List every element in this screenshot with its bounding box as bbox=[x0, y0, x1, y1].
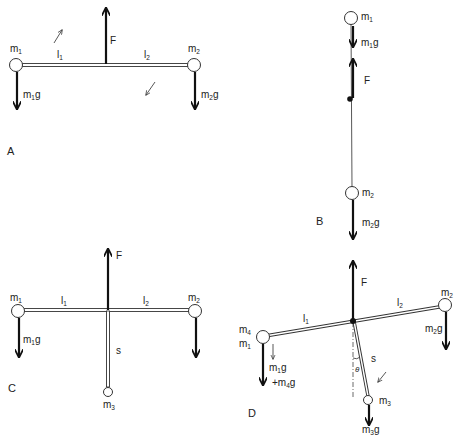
panel-label-b: B bbox=[316, 215, 323, 227]
label-m4: m4 bbox=[239, 324, 251, 336]
label-m2: m2 bbox=[362, 187, 374, 199]
mass-m1-m4 bbox=[257, 331, 270, 344]
panel-label-d: D bbox=[248, 407, 256, 419]
label-l2: l2 bbox=[144, 49, 150, 61]
theta-arc bbox=[353, 357, 360, 359]
label-l1: l1 bbox=[61, 295, 67, 307]
label-m1: m1 bbox=[361, 11, 373, 23]
label-m2g: m2g bbox=[362, 217, 380, 229]
label-f: F bbox=[116, 250, 122, 261]
mass-m2 bbox=[439, 299, 452, 312]
label-m4g: +m4g bbox=[272, 377, 295, 389]
label-f: F bbox=[364, 75, 370, 86]
label-l2: l2 bbox=[143, 295, 149, 307]
mass-m1 bbox=[10, 59, 23, 72]
label-l1: l1 bbox=[303, 313, 309, 325]
pendulum-rod-s bbox=[107, 311, 110, 387]
label-m1: m1 bbox=[10, 43, 22, 55]
mass-m3 bbox=[364, 396, 373, 405]
panel-a: m1 l1 F l2 m2 m1g m2g A bbox=[7, 9, 219, 157]
lever-rod bbox=[22, 64, 194, 67]
label-m2g: m2g bbox=[425, 323, 443, 335]
label-f: F bbox=[110, 35, 116, 46]
label-m3: m3 bbox=[379, 395, 391, 407]
panel-label-c: C bbox=[8, 382, 16, 394]
label-s: s bbox=[116, 345, 121, 356]
label-m2: m2 bbox=[188, 43, 200, 55]
mass-m1 bbox=[345, 12, 358, 25]
mass-m2 bbox=[188, 59, 201, 72]
panel-label-a: A bbox=[7, 145, 15, 157]
physics-diagram: m1 l1 F l2 m2 m1g m2g A m1 m1g F m2 m2g … bbox=[0, 0, 458, 435]
label-m2g: m2g bbox=[201, 89, 219, 101]
label-m1g: m1g bbox=[269, 362, 287, 374]
label-m1: m1 bbox=[239, 338, 251, 350]
arrow-down-left-icon bbox=[378, 372, 386, 382]
mass-m1 bbox=[12, 305, 25, 318]
label-s: s bbox=[371, 353, 376, 364]
label-m3: m3 bbox=[103, 399, 115, 411]
panel-d: F l1 l2 m2 m2g m4 m1 m1g +m4g s θ m3 m3g… bbox=[239, 262, 453, 435]
label-theta: θ bbox=[355, 365, 360, 374]
pivot-point bbox=[350, 318, 356, 324]
arrow-down-left-icon bbox=[146, 82, 155, 95]
label-l2: l2 bbox=[397, 297, 403, 309]
panel-c: F m1 l1 l2 m2 m1g s m3 C bbox=[8, 250, 202, 411]
label-f: F bbox=[361, 277, 367, 288]
string bbox=[351, 24, 352, 188]
label-m1: m1 bbox=[10, 292, 22, 304]
panel-b: m1 m1g F m2 m2g B bbox=[316, 11, 380, 238]
label-m1g: m1g bbox=[23, 334, 41, 346]
label-m1g: m1g bbox=[361, 37, 379, 49]
label-m2: m2 bbox=[188, 292, 200, 304]
arrow-up-right-icon bbox=[54, 30, 62, 43]
label-m2: m2 bbox=[441, 287, 453, 299]
mass-m2 bbox=[189, 305, 202, 318]
pivot-point bbox=[347, 96, 353, 102]
mass-m2 bbox=[346, 187, 359, 200]
label-m1g: m1g bbox=[23, 89, 41, 101]
label-l1: l1 bbox=[57, 49, 63, 61]
label-m3g: m3g bbox=[362, 424, 380, 435]
mass-m3 bbox=[104, 388, 113, 397]
